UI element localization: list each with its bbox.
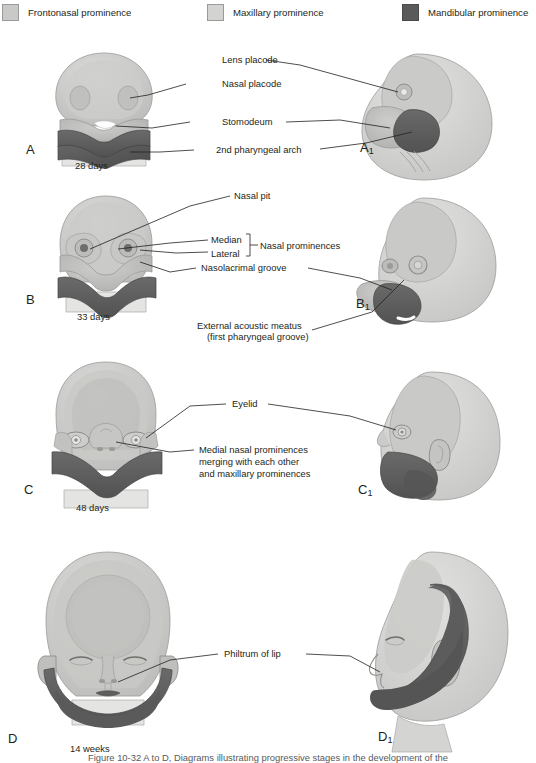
panel-stage-a: 28 days <box>75 160 108 171</box>
label-medial-nasal-line1: Medial nasal prominences <box>199 444 308 456</box>
label-external-acoustic-meatus: External acoustic meatus <box>197 320 302 332</box>
label-medial-nasal-line2: merging with each other <box>199 456 299 468</box>
panel-letter-c: C <box>24 482 33 497</box>
label-nasal-pit: Nasal pit <box>234 190 270 202</box>
panel-stage-c: 48 days <box>76 502 109 513</box>
label-median: Median <box>211 234 242 246</box>
label-lateral: Lateral <box>211 248 240 260</box>
panel-c-frontal-illustration <box>52 362 162 508</box>
panel-a-frontal-illustration <box>56 53 152 168</box>
label-2nd-pharyngeal-arch: 2nd pharyngeal arch <box>216 144 301 156</box>
label-first-pharyngeal-groove: (first pharyngeal groove) <box>207 331 309 343</box>
panel-letter-d1-sub: 1 <box>387 735 392 745</box>
label-stomodeum: Stomodeum <box>222 116 273 128</box>
panel-letter-b: B <box>26 292 35 307</box>
figure-caption: Figure 10-32 A to D, Diagrams illustrati… <box>0 752 536 763</box>
panel-letter-d-text: D <box>8 731 17 746</box>
panel-letter-c-text: C <box>24 482 33 497</box>
label-eyelid: Eyelid <box>232 398 258 410</box>
panel-letter-a1-sub: 1 <box>369 146 374 156</box>
label-lens-placode: Lens placode <box>222 54 278 66</box>
panel-b1-lateral-illustration <box>357 198 496 324</box>
panel-letter-a-text: A <box>26 142 35 157</box>
label-nasal-prominences: Nasal prominences <box>260 240 340 252</box>
panel-letter-a1-text: A <box>360 140 369 155</box>
panel-a1-lateral-illustration <box>362 54 492 180</box>
panel-letter-c1-text: C <box>358 482 367 497</box>
panel-letter-b1-text: B <box>356 296 365 311</box>
label-nasolacrimal-groove: Nasolacrimal groove <box>201 262 286 274</box>
panel-c1-lateral-illustration <box>377 372 500 500</box>
label-nasal-placode: Nasal placode <box>222 78 281 90</box>
panel-letter-d: D <box>8 731 17 746</box>
panel-letter-d1-text: D <box>378 729 387 744</box>
panel-letter-c1: C1 <box>358 482 372 497</box>
panel-letter-a: A <box>26 142 35 157</box>
panel-letter-c1-sub: 1 <box>367 488 372 498</box>
panel-stage-b: 33 days <box>77 311 110 322</box>
panel-letter-b1-sub: 1 <box>365 302 370 312</box>
panel-letter-a1: A1 <box>360 140 374 155</box>
panel-d1-lateral-illustration <box>369 552 508 752</box>
panel-letter-d1: D1 <box>378 729 392 744</box>
label-medial-nasal-line3: and maxillary prominences <box>199 468 311 480</box>
label-philtrum-of-lip: Philtrum of lip <box>224 648 281 660</box>
panel-b-frontal-illustration <box>58 196 156 318</box>
panel-letter-b1: B1 <box>356 296 370 311</box>
panel-d-frontal-illustration <box>38 552 178 728</box>
panel-letter-b-text: B <box>26 292 35 307</box>
